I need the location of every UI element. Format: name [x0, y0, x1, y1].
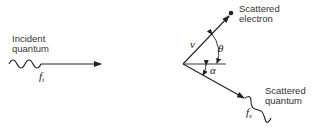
incident-label-line2: quantum [12, 44, 49, 54]
incident-subscript: i [42, 76, 44, 84]
scattered-quantum-label: Scattered quantum [265, 86, 306, 106]
incident-frequency-symbol: fi [39, 70, 44, 84]
incident-label: Incident quantum [12, 34, 49, 54]
incident-wave-icon [9, 60, 41, 68]
alpha-symbol: α [210, 64, 216, 76]
electron-label-line2: electron [239, 14, 280, 24]
velocity-symbol: v [190, 38, 195, 50]
electron-label: Scattered electron [239, 4, 280, 24]
scattered-quantum-label-line2: quantum [265, 96, 306, 106]
scattered-frequency-symbol: fs [246, 106, 252, 120]
alpha-arc [203, 65, 206, 75]
compton-scattering-diagram: Incident quantum fi Scattered electron v… [0, 0, 314, 130]
electron-dot-icon [229, 11, 234, 16]
scattered-subscript: s [249, 112, 252, 120]
theta-symbol: θ [218, 42, 223, 54]
